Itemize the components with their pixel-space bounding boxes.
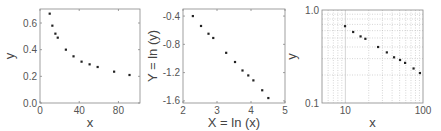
- data-point: [212, 37, 214, 39]
- plot-frame: [183, 9, 285, 103]
- data-point: [261, 89, 263, 91]
- data-point: [344, 25, 346, 27]
- y-tick-label: -0.4: [163, 11, 181, 22]
- data-point: [207, 33, 209, 35]
- data-point: [234, 61, 236, 63]
- data-point: [364, 38, 366, 40]
- x-axis-label: x: [87, 115, 94, 130]
- x-tick-label: 10: [340, 105, 352, 116]
- data-point: [247, 74, 249, 76]
- data-point: [399, 59, 401, 61]
- y-tick-label: 0.6: [23, 18, 37, 29]
- data-point: [267, 97, 269, 99]
- y-axis-label: y: [284, 53, 299, 60]
- data-point: [54, 33, 56, 35]
- plot-frame: [40, 9, 140, 103]
- tick-marks: [40, 9, 140, 103]
- data-point: [377, 46, 379, 48]
- data-point: [72, 55, 74, 57]
- data-point: [412, 67, 414, 69]
- y-tick-label: 0.4: [23, 44, 37, 55]
- data-points: [192, 15, 270, 99]
- data-point: [57, 37, 59, 39]
- charts-canvas: 040800.00.20.40.6xy 2345-0.4-0.8-1.2-1.6…: [0, 0, 441, 130]
- y-axis-label: Y = ln (y): [145, 30, 160, 82]
- y-tick-label: 1.0: [305, 5, 319, 16]
- data-point: [386, 51, 388, 53]
- x-tick-label: 2: [180, 105, 186, 116]
- tick-marks: [183, 9, 285, 103]
- data-point: [404, 62, 406, 64]
- y-tick-label: -0.8: [163, 39, 181, 50]
- data-point: [51, 25, 53, 27]
- grid-lines: [322, 10, 423, 103]
- x-axis-label: x: [369, 115, 376, 130]
- plot-log-log: 101000.11.0xy: [284, 5, 432, 131]
- y-tick-label: 0.0: [23, 98, 37, 109]
- plot-frame: [322, 10, 423, 103]
- data-point: [419, 72, 421, 74]
- x-axis-label: X = ln (x): [208, 115, 260, 130]
- data-points: [344, 25, 421, 74]
- x-tick-label: 0: [37, 105, 43, 116]
- y-tick-label: -1.6: [163, 95, 181, 106]
- data-point: [113, 71, 115, 73]
- data-point: [89, 63, 91, 65]
- y-tick-label: 0.2: [23, 71, 37, 82]
- plot-ln-ln: 2345-0.4-0.8-1.2-1.6X = ln (x)Y = ln (y): [145, 9, 288, 130]
- data-point: [393, 56, 395, 58]
- y-tick-label: 0.1: [305, 98, 319, 109]
- data-point: [49, 13, 51, 15]
- data-point: [241, 69, 243, 71]
- x-tick-label: 5: [282, 105, 288, 116]
- data-point: [128, 74, 130, 76]
- plot-linear: 040800.00.20.40.6xy: [2, 9, 140, 130]
- data-point: [252, 79, 254, 81]
- data-point: [80, 61, 82, 63]
- y-axis-label: y: [2, 52, 17, 59]
- x-tick-label: 80: [113, 105, 125, 116]
- x-tick-label: 40: [74, 105, 86, 116]
- data-point: [65, 49, 67, 51]
- data-point: [200, 25, 202, 27]
- y-tick-label: -1.2: [163, 67, 181, 78]
- data-point: [352, 31, 354, 33]
- data-point: [192, 15, 194, 17]
- data-points: [49, 13, 131, 77]
- x-tick-label: 100: [415, 105, 432, 116]
- data-point: [359, 35, 361, 37]
- data-point: [97, 66, 99, 68]
- data-point: [225, 52, 227, 54]
